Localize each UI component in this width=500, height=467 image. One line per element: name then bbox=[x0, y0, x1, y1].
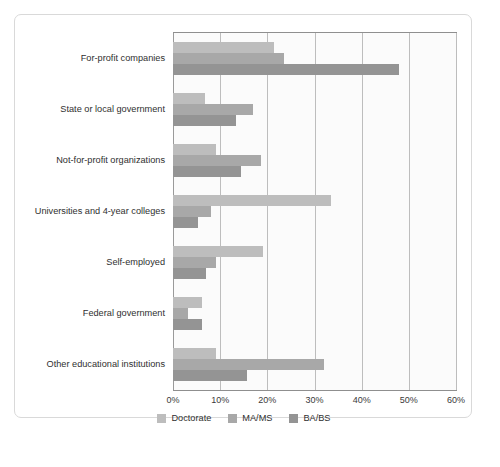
x-tick-label-10%: 10% bbox=[211, 395, 229, 405]
bar-group bbox=[173, 144, 456, 177]
x-tick-label-0%: 0% bbox=[166, 395, 179, 405]
bar-chart: For-profit companiesState or local gover… bbox=[15, 15, 473, 419]
bar-doctorate-1 bbox=[173, 93, 205, 104]
bar-ba-bs-4 bbox=[173, 268, 206, 279]
bar-group bbox=[173, 348, 456, 381]
plot-area bbox=[173, 33, 456, 390]
plot-bottom-border bbox=[173, 390, 457, 391]
bar-ba-bs-6 bbox=[173, 370, 247, 381]
bar-ma-ms-6 bbox=[173, 359, 324, 370]
category-label-4: Self-employed bbox=[0, 257, 165, 268]
legend-label: Doctorate bbox=[171, 413, 211, 423]
chart-figure: For-profit companiesState or local gover… bbox=[14, 14, 472, 418]
x-tick-label-30%: 30% bbox=[305, 395, 323, 405]
legend-swatch-icon bbox=[157, 414, 166, 423]
bar-ma-ms-3 bbox=[173, 206, 211, 217]
bar-ba-bs-5 bbox=[173, 319, 202, 330]
bar-ma-ms-1 bbox=[173, 104, 253, 115]
category-label-2: Not-for-profit organizations bbox=[0, 155, 165, 166]
bar-group bbox=[173, 297, 456, 330]
legend-swatch-icon bbox=[289, 414, 298, 423]
bar-ma-ms-2 bbox=[173, 155, 261, 166]
bar-ma-ms-0 bbox=[173, 53, 284, 64]
x-tick-label-20%: 20% bbox=[258, 395, 276, 405]
legend-label: BA/BS bbox=[303, 413, 330, 423]
bar-doctorate-3 bbox=[173, 195, 331, 206]
bar-ba-bs-1 bbox=[173, 115, 236, 126]
legend-item-ma-ms[interactable]: MA/MS bbox=[228, 413, 272, 423]
bar-doctorate-0 bbox=[173, 42, 274, 53]
category-label-1: State or local government bbox=[0, 104, 165, 115]
gridline-60% bbox=[456, 33, 457, 390]
category-label-0: For-profit companies bbox=[0, 53, 165, 64]
category-label-5: Federal government bbox=[0, 308, 165, 319]
x-tick-label-60%: 60% bbox=[447, 395, 465, 405]
bar-doctorate-6 bbox=[173, 348, 216, 359]
bar-group bbox=[173, 195, 456, 228]
category-label-3: Universities and 4-year colleges bbox=[0, 206, 165, 217]
category-label-6: Other educational institutions bbox=[0, 359, 165, 370]
bar-ba-bs-0 bbox=[173, 64, 399, 75]
bar-group bbox=[173, 42, 456, 75]
bar-doctorate-4 bbox=[173, 246, 263, 257]
bar-ba-bs-3 bbox=[173, 217, 198, 228]
bar-group bbox=[173, 93, 456, 126]
bar-doctorate-5 bbox=[173, 297, 202, 308]
bar-ma-ms-5 bbox=[173, 308, 188, 319]
bar-doctorate-2 bbox=[173, 144, 216, 155]
legend-label: MA/MS bbox=[242, 413, 272, 423]
chart-legend: DoctorateMA/MSBA/BS bbox=[15, 413, 473, 423]
bar-ma-ms-4 bbox=[173, 257, 216, 268]
legend-item-doctorate[interactable]: Doctorate bbox=[157, 413, 211, 423]
x-tick-label-50%: 50% bbox=[400, 395, 418, 405]
bar-group bbox=[173, 246, 456, 279]
x-tick-label-40%: 40% bbox=[353, 395, 371, 405]
bar-ba-bs-2 bbox=[173, 166, 241, 177]
legend-swatch-icon bbox=[228, 414, 237, 423]
legend-item-ba-bs[interactable]: BA/BS bbox=[289, 413, 330, 423]
